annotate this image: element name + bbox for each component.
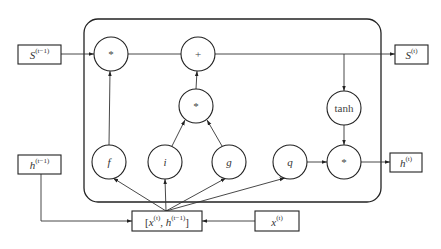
box-x-input: x(t) [255, 211, 299, 231]
edge-f-to-forget-mult [109, 71, 110, 145]
g-label: g [226, 156, 232, 168]
tanh-label: tanh [335, 102, 354, 114]
box-hidden-out: h(t) [390, 153, 422, 172]
node-forget-mult: * [94, 37, 128, 71]
lstm-diagram: * + * tanh f i g q * S(t−1) S(t) [0, 0, 441, 249]
box-concat: [x(t), h(t−1)] [132, 211, 202, 231]
edge-g-to-input-mult [207, 120, 222, 146]
box-hidden-prev: h(t−1) [18, 155, 61, 174]
multiply-symbol: * [108, 48, 114, 60]
node-tanh: tanh [327, 91, 361, 125]
edge-i-to-input-mult [172, 120, 185, 146]
q-label: q [287, 156, 293, 168]
node-add: + [181, 37, 215, 71]
node-output-mult: * [327, 145, 361, 179]
node-input-mult: * [179, 89, 213, 123]
node-f-gate: f [92, 145, 126, 179]
edge-concat-to-f [113, 178, 166, 211]
box-state-out: S(t) [395, 45, 428, 64]
node-g-gate: g [212, 145, 246, 179]
node-i-gate: i [148, 145, 182, 179]
edge-input-mult-to-add [196, 71, 197, 89]
box-state-prev: S(t−1) [18, 45, 61, 64]
edge-concat-to-q [166, 178, 285, 211]
edge-concat-to-i [165, 179, 166, 211]
i-label: i [163, 156, 166, 168]
plus-symbol: + [195, 48, 201, 60]
edge-concat-to-g [166, 178, 226, 211]
multiply-symbol: * [193, 100, 199, 112]
multiply-symbol: * [341, 156, 347, 168]
node-q-gate: q [273, 145, 307, 179]
